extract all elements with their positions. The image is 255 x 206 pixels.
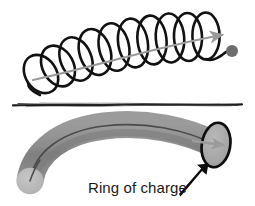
ring-of-charge-label: Ring of charge — [88, 179, 187, 196]
particle-dot — [226, 45, 238, 57]
figure-canvas — [0, 0, 255, 206]
physics-figure: Ring of charge — [0, 0, 255, 206]
helix-panel — [17, 12, 238, 99]
panel-divider-line — [13, 103, 242, 107]
helix-coil — [17, 12, 226, 99]
